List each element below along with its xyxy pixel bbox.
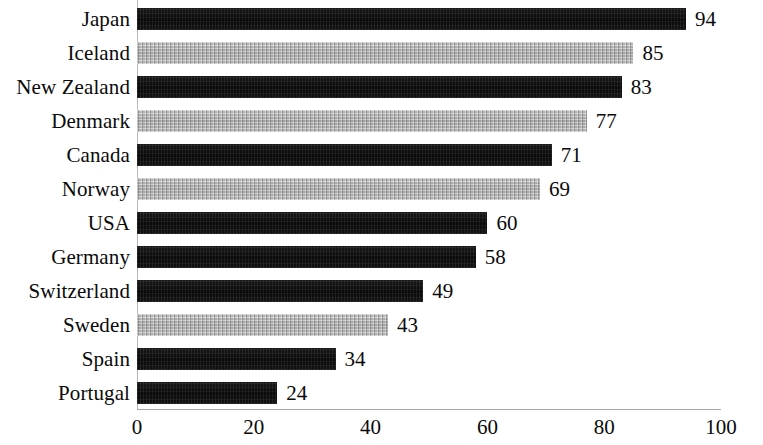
bar-row: Portugal24 — [0, 376, 763, 410]
bar-canada[interactable] — [137, 144, 552, 166]
bar-value-label: 69 — [540, 178, 570, 200]
bar-value-label: 60 — [487, 212, 517, 234]
bar-row: Spain34 — [0, 342, 763, 376]
category-label: Switzerland — [29, 274, 137, 308]
x-axis-tick-labels: 020406080100 — [0, 412, 763, 445]
category-label: Portugal — [58, 376, 137, 410]
bar-norway[interactable] — [137, 178, 540, 200]
bar-row: Norway69 — [0, 172, 763, 206]
bar-value-label: 34 — [336, 348, 366, 370]
bar-value-label: 58 — [476, 246, 506, 268]
bar-row: New Zealand83 — [0, 70, 763, 104]
category-label: Japan — [82, 2, 137, 36]
bar-usa[interactable] — [137, 212, 487, 234]
bar-sweden[interactable] — [137, 314, 388, 336]
category-label: Spain — [82, 342, 137, 376]
bar-germany[interactable] — [137, 246, 476, 268]
x-axis-line — [137, 409, 721, 410]
x-tick-label: 80 — [559, 412, 649, 443]
bar-value-label: 77 — [587, 110, 617, 132]
x-tick-label: 100 — [676, 412, 763, 443]
bar-value-label: 24 — [277, 382, 307, 404]
bar-new-zealand[interactable] — [137, 76, 622, 98]
bar-value-label: 43 — [388, 314, 418, 336]
bar-row: Sweden43 — [0, 308, 763, 342]
category-label: Canada — [66, 138, 137, 172]
x-tick-label: 20 — [209, 412, 299, 443]
bar-japan[interactable] — [137, 8, 686, 30]
bar-iceland[interactable] — [137, 42, 633, 64]
category-label: Iceland — [68, 36, 138, 70]
category-label: Denmark — [51, 104, 137, 138]
bar-value-label: 85 — [633, 42, 663, 64]
category-label: USA — [88, 206, 137, 240]
bar-chart: Japan94Iceland85New Zealand83Denmark77Ca… — [0, 0, 763, 445]
category-label: Germany — [51, 240, 137, 274]
x-tick-label: 0 — [92, 412, 182, 443]
plot-area: Japan94Iceland85New Zealand83Denmark77Ca… — [0, 0, 763, 410]
bar-row: Canada71 — [0, 138, 763, 172]
bar-row: Switzerland49 — [0, 274, 763, 308]
bar-spain[interactable] — [137, 348, 336, 370]
x-tick-label: 40 — [326, 412, 416, 443]
category-label: Norway — [62, 172, 137, 206]
bar-portugal[interactable] — [137, 382, 277, 404]
bar-denmark[interactable] — [137, 110, 587, 132]
category-label: Sweden — [63, 308, 137, 342]
category-label: New Zealand — [16, 70, 137, 104]
bar-value-label: 83 — [622, 76, 652, 98]
bar-row: Iceland85 — [0, 36, 763, 70]
bar-value-label: 94 — [686, 8, 716, 30]
bar-value-label: 71 — [552, 144, 582, 166]
bar-row: USA60 — [0, 206, 763, 240]
bar-row: Germany58 — [0, 240, 763, 274]
bar-value-label: 49 — [423, 280, 453, 302]
bar-row: Denmark77 — [0, 104, 763, 138]
x-tick-label: 60 — [442, 412, 532, 443]
bar-row: Japan94 — [0, 2, 763, 36]
bar-switzerland[interactable] — [137, 280, 423, 302]
